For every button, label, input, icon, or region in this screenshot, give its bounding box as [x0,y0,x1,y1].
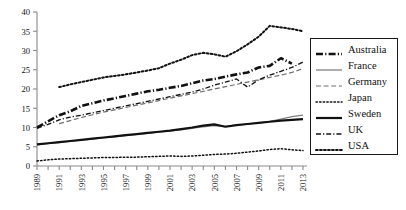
x-axis-tick-label: 2011 [276,174,286,191]
legend-label: UK [348,125,363,135]
line-chart: 0510152025303540198919911993199519971999… [0,0,406,210]
series-line-sweden [37,119,303,144]
legend-label: France [348,61,377,71]
x-axis-tick-label: 1989 [32,174,42,191]
series-line-australia [37,58,292,127]
x-axis-tick-label: 1999 [143,174,153,191]
legend-swatch-france-icon [315,61,343,71]
y-axis-tick-label: 15 [21,104,30,114]
legend-label: USA [348,141,369,151]
legend-item-sweden[interactable]: Sweden [311,106,397,122]
legend-item-uk[interactable]: UK [311,122,397,138]
y-axis-tick-label: 40 [21,7,30,17]
y-axis-tick-label: 10 [21,123,30,133]
y-axis-tick-label: 25 [21,65,30,75]
legend-item-australia[interactable]: Australia [311,42,397,58]
legend-swatch-sweden-icon [315,109,343,119]
legend-item-germany[interactable]: Germany [311,74,397,90]
y-axis-tick-label: 30 [21,46,30,56]
x-axis-tick-label: 1995 [99,174,109,191]
legend-item-usa[interactable]: USA [311,138,397,154]
legend-label: Sweden [348,109,381,119]
x-axis-tick-label: 2013 [298,174,308,191]
series-line-japan [37,149,303,161]
legend-swatch-australia-icon [315,45,343,55]
x-axis-tick-label: 2007 [232,173,242,191]
x-axis-tick-label: 1997 [121,173,131,191]
chart-legend: AustraliaFranceGermanyJapanSwedenUKUSA [310,38,398,155]
series-line-usa [59,26,303,87]
legend-swatch-uk-icon [315,125,343,135]
y-axis-tick-label: 20 [21,84,30,94]
x-axis-tick-label: 2005 [210,174,220,191]
legend-swatch-japan-icon [315,93,343,103]
legend-label: Germany [348,77,387,87]
legend-label: Australia [348,45,387,55]
series-line-germany [59,69,303,124]
legend-item-france[interactable]: France [311,58,397,74]
legend-swatch-usa-icon [315,141,343,151]
x-axis-tick-label: 2003 [187,174,197,191]
legend-item-japan[interactable]: Japan [311,90,397,106]
x-axis-tick-label: 2001 [165,174,175,191]
y-axis-tick-label: 5 [26,142,30,152]
x-axis-tick-label: 2009 [254,174,264,191]
legend-swatch-germany-icon [315,77,343,87]
legend-label: Japan [348,93,372,103]
x-axis-tick-label: 1991 [54,174,64,191]
y-axis-tick-label: 0 [26,161,30,171]
y-axis-tick-label: 35 [21,27,30,37]
x-axis-tick-label: 1993 [77,174,87,191]
